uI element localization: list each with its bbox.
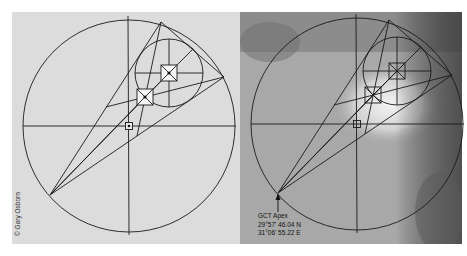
apex-longitude: 31°06' 55.22 E [258, 229, 301, 238]
right-construction [251, 14, 464, 233]
apex-label: GCT Apex 29°57' 46.04 N 31°06' 55.22 E [258, 212, 301, 238]
apex-latitude: 29°57' 46.04 N [258, 221, 301, 230]
construction-lines [0, 0, 467, 256]
faint-footer: · · · · [408, 245, 440, 251]
apex-title: GCT Apex [258, 212, 301, 221]
credit-text: © Gary Osborn [14, 192, 21, 236]
